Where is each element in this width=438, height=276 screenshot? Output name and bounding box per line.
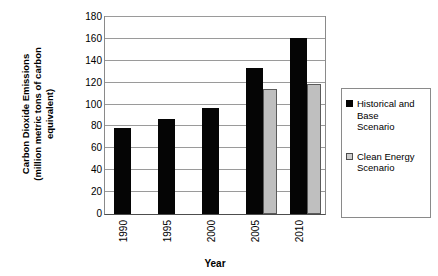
bar-historical-2000 [202,108,219,214]
gray-square-icon [346,153,353,160]
bar-historical-2005 [246,68,263,214]
legend-item-historical: Historical and Base Scenario [346,98,426,133]
x-tick-label-2000: 2000 [206,220,217,242]
bar-clean-energy-2005 [263,89,277,214]
bar-clean-energy-2010 [307,84,321,214]
y-tick-label: 120 [62,78,102,88]
x-tick-label-1995: 1995 [162,220,173,242]
y-tick-label: 140 [62,56,102,66]
x-axis-title: Year [104,258,326,269]
legend-label-historical-line-2: Base [357,110,415,122]
x-tick-label-1990: 1990 [118,220,129,242]
y-tick-label: 100 [62,100,102,110]
chart-legend: Historical and Base Scenario Clean Energ… [341,88,431,218]
y-axis-title: Carbon Dioxide Emissions (million metric… [12,14,64,214]
y-tick-label: 60 [62,143,102,153]
legend-label-clean-energy-line-1: Clean Energy [357,151,415,163]
y-tick-label: 180 [62,12,102,22]
bar-historical-2010 [290,38,307,214]
y-axis-title-line-3: equivalent) [44,47,56,181]
y-axis-title-line-1: Carbon Dioxide Emissions [20,47,32,181]
y-tick-label: 160 [62,34,102,44]
gridline [105,16,325,17]
chart-figure: Carbon Dioxide Emissions (million metric… [0,0,438,276]
x-tick-label-2005: 2005 [250,220,261,242]
x-axis-ticks: 19901995200020052010 [104,216,326,256]
y-axis-title-line-2: (million metric tons of carbon [32,47,44,181]
plot-area [104,16,326,215]
y-tick-label: 80 [62,121,102,131]
legend-label-historical-line-3: Scenario [357,121,415,133]
legend-label-clean-energy: Clean Energy Scenario [357,151,415,174]
bar-historical-1995 [158,119,175,214]
y-tick-label: 0 [62,209,102,219]
legend-label-historical-line-1: Historical and [357,98,415,110]
legend-label-clean-energy-line-2: Scenario [357,162,415,174]
bar-historical-1990 [114,128,131,214]
y-tick-label: 40 [62,165,102,175]
x-tick-label-2010: 2010 [294,220,305,242]
black-square-icon [346,100,353,107]
legend-label-historical: Historical and Base Scenario [357,98,415,133]
y-tick-label: 20 [62,187,102,197]
y-axis-ticks: 020406080100120140160180 [60,0,102,276]
legend-item-clean-energy: Clean Energy Scenario [346,151,426,174]
